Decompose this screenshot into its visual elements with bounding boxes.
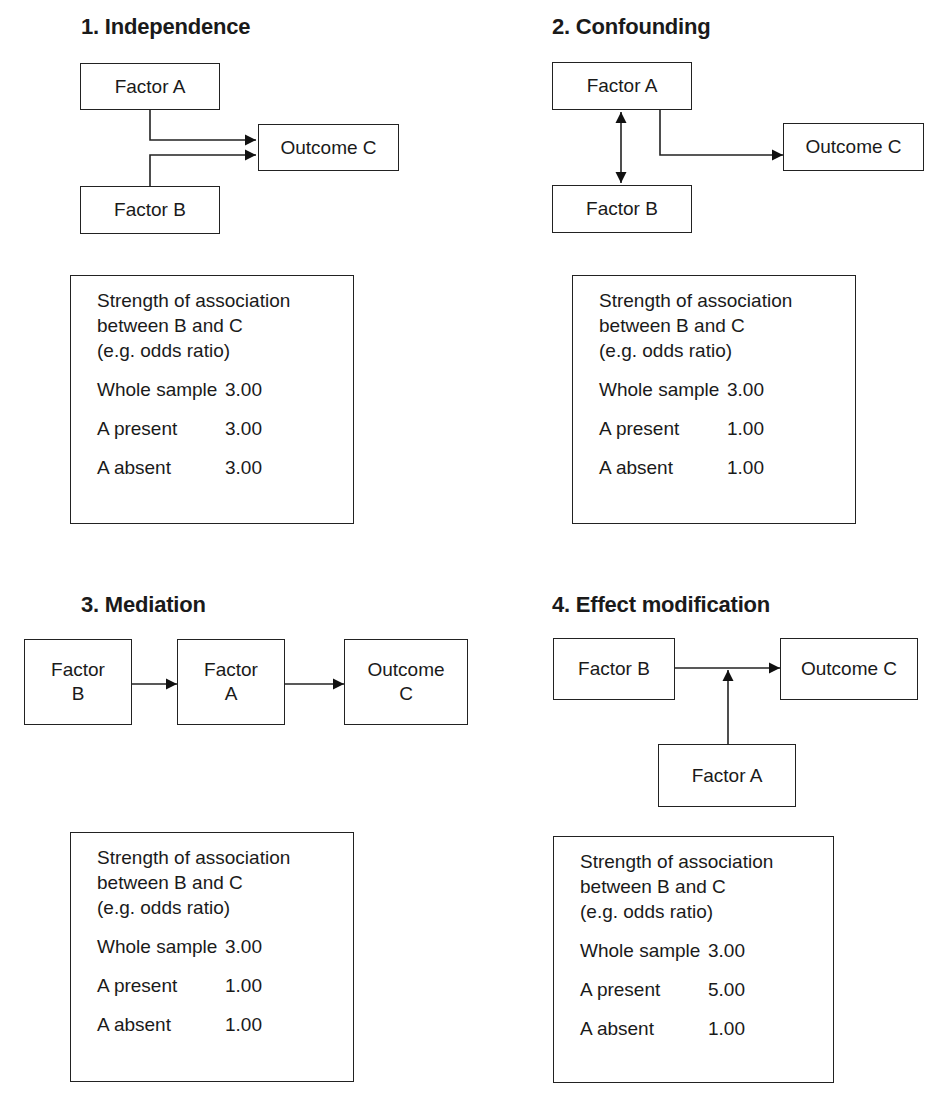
factor-a-node: Factor A (177, 639, 285, 725)
table-row: Whole sample3.00 (580, 938, 833, 963)
table-heading: Strength of association between B and C … (580, 849, 833, 924)
table-row: Whole sample3.00 (97, 377, 353, 402)
table-row: A absent3.00 (97, 455, 353, 480)
factor-b-node: Factor B (553, 638, 675, 700)
table-row: A absent1.00 (97, 1012, 353, 1037)
table-row: Whole sample3.00 (97, 934, 353, 959)
factor-a-node: Factor A (80, 63, 220, 110)
panel-1-title: 1. Independence (81, 14, 250, 40)
table-row: A present5.00 (580, 977, 833, 1002)
outcome-c-node: Outcome C (780, 638, 918, 700)
table-heading: Strength of association between B and C … (599, 288, 855, 363)
table-row: A absent1.00 (580, 1016, 833, 1041)
table-row: A present1.00 (599, 416, 855, 441)
table-row: Whole sample3.00 (599, 377, 855, 402)
association-table: Strength of association between B and C … (70, 832, 354, 1082)
factor-b-node: Factor B (80, 186, 220, 234)
panel-3-title: 3. Mediation (81, 592, 206, 618)
panel-4-title: 4. Effect modification (552, 592, 770, 618)
association-table: Strength of association between B and C … (553, 836, 834, 1083)
factor-a-node: Factor A (552, 62, 692, 110)
outcome-c-node: Outcome C (344, 639, 468, 725)
table-heading: Strength of association between B and C … (97, 288, 353, 363)
factor-b-node: Factor B (552, 185, 692, 233)
table-heading: Strength of association between B and C … (97, 845, 353, 920)
panel-2-title: 2. Confounding (552, 14, 711, 40)
factor-b-node: Factor B (24, 639, 132, 725)
association-table: Strength of association between B and C … (572, 275, 856, 524)
table-row: A absent1.00 (599, 455, 855, 480)
outcome-c-node: Outcome C (258, 124, 399, 171)
table-row: A present3.00 (97, 416, 353, 441)
table-row: A present1.00 (97, 973, 353, 998)
association-table: Strength of association between B and C … (70, 275, 354, 524)
factor-a-node: Factor A (658, 744, 796, 807)
outcome-c-node: Outcome C (783, 123, 924, 171)
